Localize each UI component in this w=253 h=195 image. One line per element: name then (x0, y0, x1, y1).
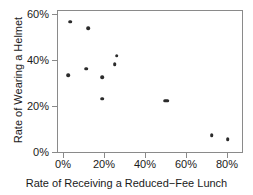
plot-frame (57, 10, 243, 153)
x-axis-title: Rate of Receiving a Reduced−Fee Lunch (0, 177, 253, 189)
xtick-label-60: 60% (175, 159, 197, 170)
data-point (113, 63, 117, 67)
ytick-label-40: 40% (27, 55, 49, 66)
xtick-label-0: 0% (55, 159, 71, 170)
ytick-label-20: 20% (27, 101, 49, 112)
data-point (115, 54, 119, 58)
data-point (68, 20, 72, 24)
ytick-label-60: 60% (27, 9, 49, 20)
data-point (226, 137, 230, 141)
xtick-label-80: 80% (216, 159, 238, 170)
scatter-plot-figure: 60% 40% 20% 0% 0% 20% 40% 60% 80% Rate o… (0, 0, 253, 195)
data-point (210, 133, 214, 137)
ytick-label-0: 0% (33, 147, 49, 158)
data-point (66, 73, 70, 77)
data-point (85, 67, 89, 71)
xtick-label-40: 40% (134, 159, 156, 170)
data-point (87, 26, 91, 30)
plot-area (58, 11, 242, 152)
data-point (101, 75, 105, 79)
y-axis-title: Rate of Wearing a Helmet (12, 5, 24, 155)
data-point (101, 97, 105, 101)
xtick-label-20: 20% (93, 159, 115, 170)
data-point (165, 99, 169, 103)
